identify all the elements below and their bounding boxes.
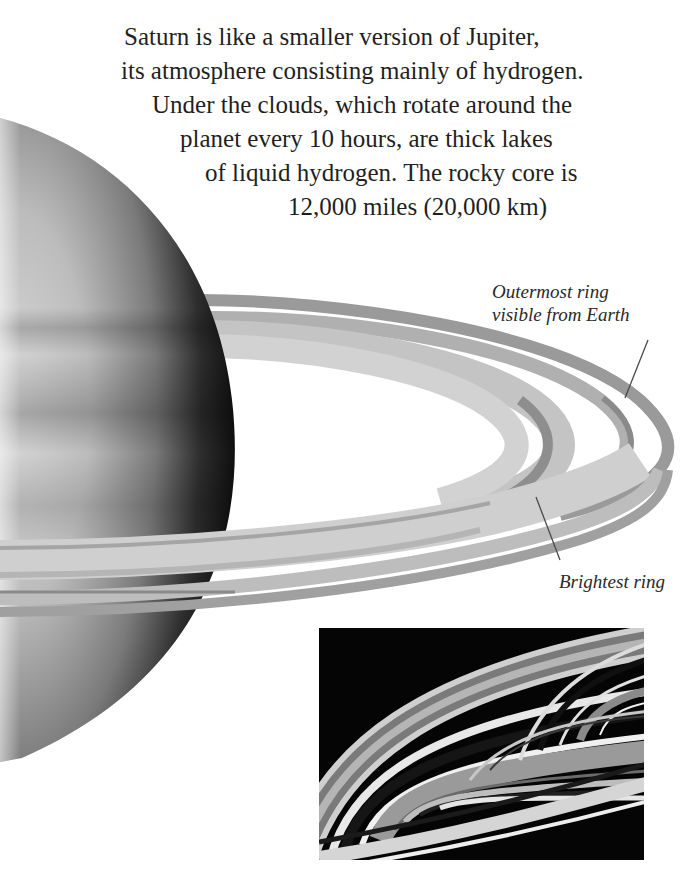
intro-line-5: of liquid hydrogen. The rocky core is <box>205 156 577 190</box>
intro-line-1: Saturn is like a smaller version of Jupi… <box>124 20 540 54</box>
intro-line-4: planet every 10 hours, are thick lakes <box>180 122 553 156</box>
intro-line-2: its atmosphere consisting mainly of hydr… <box>121 54 583 88</box>
outermost-ring-label: Outermost ring visible from Earth <box>492 280 630 326</box>
saturn-diagram: Saturn is like a smaller version of Jupi… <box>0 0 695 876</box>
planet-body <box>0 110 260 770</box>
intro-line-3: Under the clouds, which rotate around th… <box>152 88 572 122</box>
brightest-ring-label: Brightest ring <box>559 570 665 593</box>
outermost-ring-leader-line <box>625 340 648 398</box>
outermost-ring-label-line-2: visible from Earth <box>492 303 630 326</box>
ring-closeup-photo <box>300 628 660 870</box>
intro-line-6: 12,000 miles (20,000 km) <box>288 190 547 224</box>
outermost-ring-label-line-1: Outermost ring <box>492 280 630 303</box>
